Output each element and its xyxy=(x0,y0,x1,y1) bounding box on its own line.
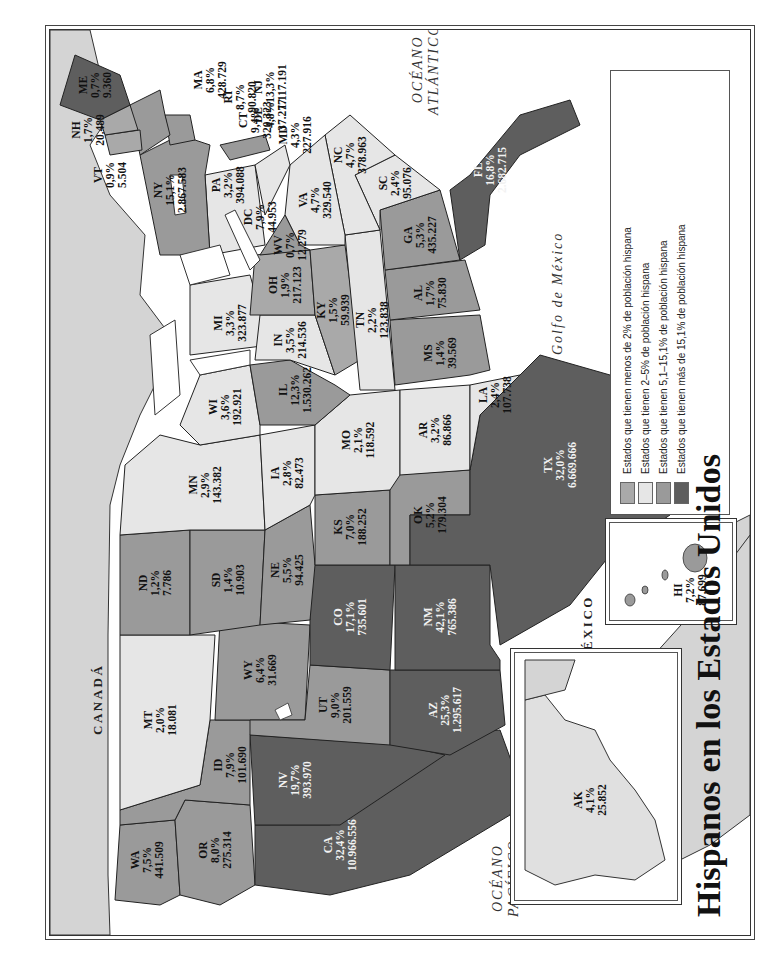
state-label-NM: NM42,1%765.386 xyxy=(422,598,458,635)
state-label-CO: CO17,1%735.601 xyxy=(332,598,368,635)
state-label-ND: ND1,2%7.786 xyxy=(137,570,173,596)
state-label-NE: NE5,5%94.425 xyxy=(269,554,305,586)
state-label-MO: MO2,1%118.592 xyxy=(340,422,376,459)
lake-superior xyxy=(150,320,180,415)
state-label-WV: WV0,7%12.279 xyxy=(272,229,308,261)
swatch-5-15 xyxy=(656,482,671,504)
state-label-AK: AK4,1%25.852 xyxy=(572,784,608,816)
state-label-AR: AR3,2%86.866 xyxy=(417,414,453,446)
legend-item-5-15: Estados que tienen 5,1–15,1% de població… xyxy=(655,81,671,504)
state-label-TX: TX32,0%6.669.666 xyxy=(542,442,578,488)
state-label-KY: KY1,5%59.939 xyxy=(315,294,351,326)
state-label-KS: KS7,0%188.252 xyxy=(332,508,368,545)
state-label-OH: OH1,9%217.123 xyxy=(267,266,303,303)
state-label-AZ: AZ25,3%1.295.617 xyxy=(427,687,463,733)
map-title: Hispanos en los Estados Unidos xyxy=(690,454,728,917)
legend-item-gt15: Estados que tienen más de 15,1% de pobla… xyxy=(673,81,689,504)
state-label-UT: UT9,0%201.559 xyxy=(317,686,353,723)
legend-item-2-5: Estados que tienen 2–5% de población his… xyxy=(637,81,653,504)
state-CT xyxy=(165,115,195,145)
state-label-WY: WY6,4%31.669 xyxy=(242,654,278,686)
state-label-DC: DC7,9%44.953 xyxy=(242,201,278,233)
state-label-OK: OK5,2%179.304 xyxy=(412,496,448,533)
swatch-gt15 xyxy=(674,482,689,504)
state-label-IN: IN3,5%214.536 xyxy=(272,321,308,358)
legend: Estados que tienen menos de 2% de poblac… xyxy=(610,70,730,515)
state-label-ID: ID7,9%101.690 xyxy=(212,746,248,783)
state-label-MN: MN2,9%143.382 xyxy=(187,466,223,503)
state-label-CA: CA32,4%10.966.556 xyxy=(322,819,358,871)
state-label-NH: NH1,7%20.489 xyxy=(70,114,106,146)
state-NJ xyxy=(220,135,270,160)
swatch-2-5 xyxy=(638,482,653,504)
state-label-FL: FL16,8%2.682.715 xyxy=(472,147,508,193)
rotated-map-page: CANADÁ MÉXICO OCÉANO ATLÁNTICO OCÉANO PA… xyxy=(45,25,755,940)
swatch-lt2 xyxy=(620,482,635,504)
state-label-MA: MA6,8%428.729 xyxy=(192,61,228,98)
label-canada: CANADÁ xyxy=(90,664,106,735)
state-label-IA: IA2,8%82.473 xyxy=(269,457,305,489)
state-label-SD: SD1,4%10.903 xyxy=(210,564,246,596)
state-label-VA: VA4,7%329.540 xyxy=(297,181,333,218)
state-label-MI: MI3,3%323.877 xyxy=(212,304,248,341)
map-frame: CANADÁ MÉXICO OCÉANO ATLÁNTICO OCÉANO PA… xyxy=(49,29,751,936)
state-label-NY: NY15,1%2.867.583 xyxy=(152,167,188,213)
state-label-NV: NV19,7%393.970 xyxy=(277,761,313,798)
label-gulf-of-mexico: Golfo de México xyxy=(550,232,566,355)
state-label-LA: LA2,4%107.738 xyxy=(477,376,513,413)
state-label-VT: VT0,9%5.504 xyxy=(92,162,128,188)
state-label-PA: PA3,2%394.088 xyxy=(210,166,246,203)
state-label-MT: MT2,0%18.081 xyxy=(142,704,178,736)
state-label-MS: MS1,4%39.569 xyxy=(422,337,458,369)
state-label-TN: TN2,2%123.838 xyxy=(354,301,390,338)
state-label-GA: GA5,3%435.227 xyxy=(402,216,438,253)
alaska-inset: AK4,1%25.852 xyxy=(510,648,682,905)
state-label-IL: IL12,3%1.530.262 xyxy=(277,367,313,413)
state-label-SC: SC2,4%95.076 xyxy=(377,167,413,199)
state-label-NC: NC4,7%378.963 xyxy=(332,136,368,173)
state-label-WA: WA7,5%441.509 xyxy=(129,841,165,878)
state-label-AL: AL1,7%75.830 xyxy=(412,277,448,309)
state-label-WI: WI3,6%192.921 xyxy=(207,388,243,425)
state-label-OR: OR8,0%275.314 xyxy=(197,831,233,868)
alaska-map xyxy=(515,655,675,900)
state-label-ME: ME0,7%9.360 xyxy=(77,72,113,98)
legend-item-lt2: Estados que tienen menos de 2% de poblac… xyxy=(619,81,635,504)
label-atlantic: OCÉANO ATLÁNTICO xyxy=(410,29,442,115)
